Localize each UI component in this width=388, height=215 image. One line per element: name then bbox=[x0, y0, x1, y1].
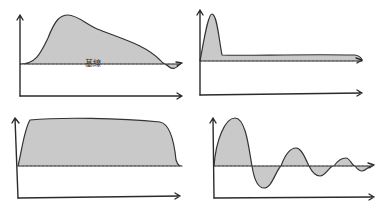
curve-spike bbox=[200, 14, 362, 61]
x-axis bbox=[18, 193, 180, 199]
panel-bottom-left bbox=[12, 118, 182, 199]
x-axis bbox=[214, 194, 374, 200]
four-panel-diagram bbox=[0, 0, 388, 215]
panel-top-right bbox=[197, 10, 362, 96]
curve-damped-oscillation bbox=[214, 118, 372, 188]
x-axis bbox=[200, 90, 362, 96]
panel-bottom-right bbox=[210, 118, 374, 200]
x-axis bbox=[20, 93, 182, 99]
baseline-label: 基線 bbox=[85, 57, 101, 68]
curve-plateau bbox=[18, 118, 182, 166]
y-axis bbox=[17, 15, 23, 96]
y-axis bbox=[12, 118, 19, 198]
